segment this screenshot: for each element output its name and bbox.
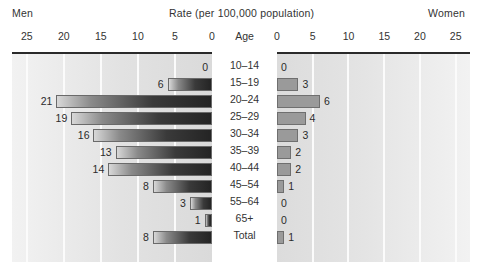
women-bar-row: 4 (277, 110, 470, 127)
men-bar-row: 1 (12, 212, 212, 229)
age-label: 35–39 (212, 143, 277, 157)
men-bar-row: 13 (12, 144, 212, 161)
women-bar-value: 0 (281, 213, 287, 227)
age-label: Total (212, 228, 277, 242)
women-axis-tick: 25 (450, 30, 462, 42)
men-bar-row: 6 (12, 76, 212, 93)
women-bar (277, 231, 284, 244)
women-bar-row: 3 (277, 127, 470, 144)
women-bar-row: 0 (277, 212, 470, 229)
women-bar-value: 0 (281, 60, 287, 74)
women-bar-value: 1 (288, 230, 294, 244)
men-bar (153, 231, 212, 244)
men-panel-label: Men (12, 7, 33, 19)
men-bar-row: 0 (12, 59, 212, 76)
women-bar-row: 2 (277, 161, 470, 178)
men-axis-tick: 15 (95, 30, 107, 42)
women-axis-tick: 15 (378, 30, 390, 42)
age-category-column: Age 10–1415–1920–2425–2930–3435–3940–444… (212, 52, 277, 262)
men-bar-value: 6 (158, 77, 164, 91)
men-axis-ticks: 2520151050 (12, 30, 212, 46)
men-bar-value: 0 (202, 60, 208, 74)
women-bar-value: 2 (295, 145, 301, 159)
men-axis-tick: 25 (21, 30, 33, 42)
women-bar-row: 1 (277, 229, 470, 246)
men-plot-area: 0621191613148318 (12, 52, 212, 262)
men-bar (56, 95, 212, 108)
age-label: 10–14 (212, 58, 277, 72)
women-bar-row: 3 (277, 76, 470, 93)
chart-title: Rate (per 100,000 population) (169, 7, 314, 19)
women-bar (277, 163, 291, 176)
men-bar-value: 13 (100, 145, 112, 159)
women-bar-row: 2 (277, 144, 470, 161)
age-label: 25–29 (212, 109, 277, 123)
women-bar-row: 0 (277, 59, 470, 76)
men-bar-row: 16 (12, 127, 212, 144)
age-label: 30–34 (212, 126, 277, 140)
women-bar (277, 78, 298, 91)
women-bar (277, 112, 306, 125)
women-bar-row: 6 (277, 93, 470, 110)
women-bar (277, 95, 320, 108)
men-bar (108, 163, 212, 176)
women-bar-value: 1 (288, 179, 294, 193)
women-axis-tick: 10 (343, 30, 355, 42)
women-bar-value: 3 (302, 128, 308, 142)
women-bar (277, 146, 291, 159)
men-bar (153, 180, 212, 193)
men-bar-row: 14 (12, 161, 212, 178)
age-label: 55–64 (212, 194, 277, 208)
men-bar-value: 19 (56, 111, 68, 125)
age-label: 45–54 (212, 177, 277, 191)
men-bar-row: 8 (12, 229, 212, 246)
women-bar-row: 0 (277, 195, 470, 212)
age-label: 15–19 (212, 75, 277, 89)
women-bar-value: 0 (281, 196, 287, 210)
women-panel-label: Women (428, 7, 465, 19)
men-axis-tick: 20 (58, 30, 70, 42)
women-bar-value: 2 (295, 162, 301, 176)
men-bar-value: 21 (41, 94, 53, 108)
men-bar (71, 112, 212, 125)
women-bar (277, 180, 284, 193)
women-bar-value: 6 (324, 94, 330, 108)
men-bar-row: 19 (12, 110, 212, 127)
men-bar (168, 78, 212, 91)
women-axis-ticks: 0510152025 (277, 30, 470, 46)
women-axis-tick: 20 (414, 30, 426, 42)
men-bar-value: 14 (93, 162, 105, 176)
age-label: 20–24 (212, 92, 277, 106)
age-label: 40–44 (212, 160, 277, 174)
men-bar-row: 21 (12, 93, 212, 110)
men-bar (93, 129, 212, 142)
men-bar-value: 3 (180, 196, 186, 210)
women-bar (277, 129, 298, 142)
age-column-heading: Age (212, 30, 277, 42)
men-axis-tick: 10 (132, 30, 144, 42)
men-bar (205, 214, 212, 227)
women-plot-area: 03643221001 (277, 52, 470, 262)
women-axis-tick: 5 (310, 30, 316, 42)
women-bar-value: 3 (302, 77, 308, 91)
men-bar (116, 146, 212, 159)
men-bar-row: 8 (12, 178, 212, 195)
men-bar-row: 3 (12, 195, 212, 212)
men-bar-value: 1 (195, 213, 201, 227)
men-bar-value: 8 (143, 179, 149, 193)
age-label: 65+ (212, 211, 277, 225)
men-bar (190, 197, 212, 210)
men-axis-tick: 5 (172, 30, 178, 42)
men-bar-value: 16 (78, 128, 90, 142)
women-bar-value: 4 (310, 111, 316, 125)
women-bar-row: 1 (277, 178, 470, 195)
chart-header: Men Rate (per 100,000 population) Women (0, 0, 482, 26)
men-bar-value: 8 (143, 230, 149, 244)
